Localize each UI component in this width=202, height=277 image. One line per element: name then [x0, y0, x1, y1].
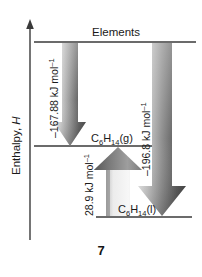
- hexane-gas-sub2: 14: [111, 138, 119, 147]
- up-arrow-exponent: –1: [82, 154, 91, 162]
- right-arrow-exponent: –1: [139, 102, 148, 110]
- left-arrow-exponent: –1: [47, 58, 56, 66]
- figure-number: 7: [0, 243, 202, 258]
- right-arrow-value-text: –196.8 kJ mol: [140, 111, 152, 176]
- axis-label-text: Enthalpy,: [10, 128, 22, 175]
- svg-text:–167.88 kJ mol–1: –167.88 kJ mol–1: [47, 58, 60, 138]
- hexane-liquid-sub2: 14: [138, 209, 146, 218]
- up-arrow-value-text: 28.9 kJ mol: [83, 162, 95, 216]
- hexane-liquid-state: (l): [146, 203, 156, 215]
- hexane-liquid-c: C: [118, 203, 126, 215]
- enthalpy-diagram-figure: Elements –167.88 kJ mol–1 –196.8 kJ mol–…: [0, 0, 202, 277]
- svg-text:–196.8 kJ mol–1: –196.8 kJ mol–1: [139, 102, 152, 176]
- hexane-gas-state: (g): [119, 132, 132, 144]
- axis-label-symbol: H: [10, 116, 22, 125]
- svg-text:28.9 kJ mol–1: 28.9 kJ mol–1: [82, 154, 95, 216]
- hexane-gas-c: C: [91, 132, 99, 144]
- hexane-gas-h: H: [103, 132, 111, 144]
- enthalpy-diagram-canvas: Elements –167.88 kJ mol–1 –196.8 kJ mol–…: [0, 0, 202, 277]
- svg-text:Enthalpy, H: Enthalpy, H: [10, 116, 22, 175]
- label-enthalpy-liquid-to-gas: 28.9 kJ mol–1: [82, 154, 95, 216]
- enthalpy-axis: [26, 19, 34, 240]
- axis-label-enthalpy: Enthalpy, H: [10, 116, 22, 175]
- label-hexane-gas: C6H14(g): [91, 132, 133, 147]
- left-arrow-value-text: –167.88 kJ mol: [48, 67, 60, 138]
- label-enthalpy-elements-to-liquid: –196.8 kJ mol–1: [139, 102, 152, 176]
- label-enthalpy-elements-to-gas: –167.88 kJ mol–1: [47, 58, 60, 138]
- hexane-liquid-h: H: [130, 203, 138, 215]
- label-elements: Elements: [92, 26, 140, 38]
